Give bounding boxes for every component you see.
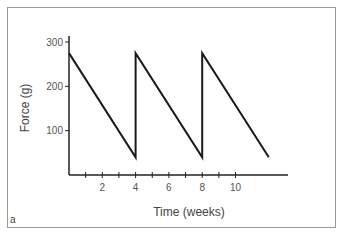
chart: 100200300 246810 Force (g) Time (weeks) [0,0,347,237]
x-axis-title: Time (weeks) [153,205,225,219]
x-tick-label: 8 [199,182,205,193]
y-tick-label: 200 [46,81,63,92]
x-tick-label: 6 [166,182,172,193]
y-tick-label: 100 [46,125,63,136]
force-line [69,53,269,157]
x-tick-label: 4 [133,182,139,193]
x-tick-label: 10 [230,182,242,193]
y-tick-label: 300 [46,37,63,48]
y-axis-title: Force (g) [18,84,32,133]
x-tick-label: 2 [100,182,106,193]
y-axis-ticks: 100200300 [46,37,69,137]
panel-label: a [10,214,16,225]
